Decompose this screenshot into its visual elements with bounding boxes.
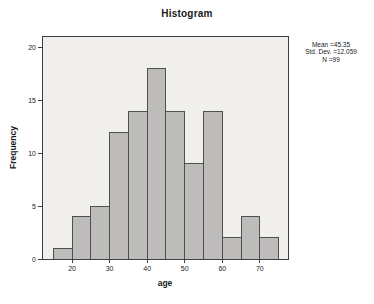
histogram-bar — [203, 111, 222, 259]
stat-mean: Mean =45.35 — [288, 41, 374, 48]
histogram-bar — [110, 132, 129, 259]
histogram-bar — [147, 69, 166, 259]
histogram-bar — [72, 217, 91, 259]
histogram-bar — [53, 248, 72, 259]
y-tick-label: 20 — [28, 44, 36, 51]
y-tick-label: 5 — [32, 203, 36, 210]
y-tick-label: 10 — [28, 150, 36, 157]
histogram-bar — [91, 206, 110, 259]
stats-annotation: Mean =45.35 Std. Dev. =12.059 N =99 — [288, 41, 374, 63]
histogram-bar — [222, 238, 241, 259]
x-tick-label: 60 — [218, 265, 226, 272]
histogram-bar — [166, 111, 185, 259]
stat-n: N =99 — [288, 56, 374, 63]
x-tick-label: 20 — [68, 265, 76, 272]
histogram-bar — [241, 217, 260, 259]
x-tick-label: 70 — [256, 265, 264, 272]
histogram-bar — [185, 164, 204, 259]
histogram-figure: Histogram 05101520203040506070 Frequency… — [0, 0, 374, 304]
y-axis-label: Frequency — [8, 48, 21, 248]
stat-std-dev: Std. Dev. =12.059 — [288, 48, 374, 55]
x-tick-label: 40 — [143, 265, 151, 272]
x-tick-label: 50 — [181, 265, 189, 272]
x-axis-label: age — [42, 278, 288, 288]
histogram-bar — [260, 238, 279, 259]
histogram-bar — [128, 111, 147, 259]
y-tick-label: 15 — [28, 97, 36, 104]
y-tick-label: 0 — [32, 256, 36, 263]
x-tick-label: 30 — [106, 265, 114, 272]
